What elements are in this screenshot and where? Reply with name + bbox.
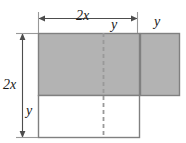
label-segment-right: y	[154, 15, 160, 29]
shaded-right-region	[141, 34, 180, 96]
geometry-figure: 2x y y 2x y	[0, 0, 186, 143]
top-dimension-arrow-right	[131, 16, 138, 22]
label-segment-mid: y	[111, 18, 117, 32]
label-height-lower: y	[26, 104, 32, 118]
shaded-main-region	[39, 34, 140, 96]
top-dimension-arrow-left	[39, 16, 46, 22]
label-height-left: 2x	[3, 78, 16, 92]
unshaded-lower-region	[39, 96, 140, 138]
label-width-top: 2x	[76, 9, 89, 23]
